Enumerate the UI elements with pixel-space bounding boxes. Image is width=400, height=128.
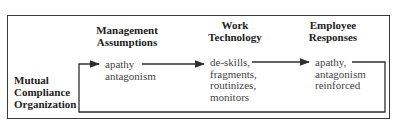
- employee-responses-items: apathy, antagonism reinforced: [315, 57, 366, 92]
- management-assumptions-items: apathy antagonism: [105, 59, 156, 82]
- work-technology-items: de-skills, fragments, routinizes, monito…: [210, 57, 257, 103]
- header-employee-responses: Employee Responses: [308, 20, 358, 43]
- header-work-technology: Work Technology: [205, 20, 265, 43]
- header-management-assumptions: Management Assumptions: [96, 25, 158, 48]
- organization-label: Mutual Compliance Organization: [14, 74, 76, 110]
